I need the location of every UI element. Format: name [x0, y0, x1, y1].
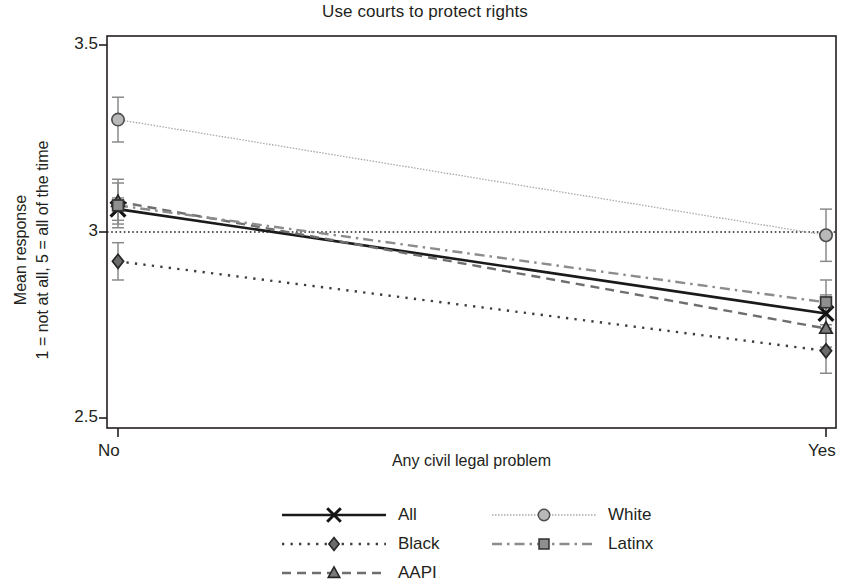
legend-label-aapi: AAPI [388, 563, 437, 583]
chart-figure: Use courts to protect rights Mean respon… [0, 0, 850, 587]
series-line-all [118, 209, 826, 313]
series-markers-latinx [113, 200, 832, 308]
axis-frame [99, 36, 836, 437]
error-bars-aapi [112, 179, 832, 347]
plot-area [0, 0, 850, 500]
marker-triangle [820, 322, 833, 333]
series-layer [111, 97, 834, 373]
series-line-latinx [118, 205, 826, 302]
error-bars-white [112, 97, 832, 261]
legend-sample-latinx-icon [490, 532, 598, 556]
legend-item-all[interactable]: All [280, 503, 490, 527]
series-markers-black [112, 254, 831, 358]
marker-square [539, 539, 549, 549]
legend-sample-aapi-icon [280, 561, 388, 585]
marker-circle [112, 113, 124, 125]
series-line-black [118, 261, 826, 351]
legend-item-white[interactable]: White [490, 503, 700, 527]
marker-square [113, 200, 124, 211]
legend-sample-white-icon [490, 503, 598, 527]
legend-label-all: All [388, 505, 417, 525]
legend-item-black[interactable]: Black [280, 532, 490, 556]
series-markers-white [112, 113, 832, 241]
series-line-white [118, 120, 826, 236]
error-bars-all [112, 198, 832, 329]
legend-label-black: Black [388, 534, 440, 554]
legend-row: AllWhite [280, 500, 700, 529]
marker-diamond [329, 537, 339, 550]
chart-legend: AllWhiteBlackLatinxAAPI [280, 500, 700, 587]
legend-row: BlackLatinx [280, 529, 700, 558]
legend-sample-all-icon [280, 503, 388, 527]
marker-circle [820, 229, 832, 241]
marker-diamond [820, 344, 831, 358]
marker-diamond [112, 254, 123, 268]
error-bars-latinx [112, 183, 832, 325]
legend-item-aapi[interactable]: AAPI [280, 561, 490, 585]
marker-square [821, 297, 832, 308]
legend-label-white: White [598, 505, 651, 525]
legend-item-latinx[interactable]: Latinx [490, 532, 700, 556]
legend-row: AAPI [280, 558, 700, 587]
legend-sample-black-icon [280, 532, 388, 556]
legend-label-latinx: Latinx [598, 534, 653, 554]
series-markers-aapi [112, 195, 833, 333]
marker-circle [538, 509, 549, 520]
